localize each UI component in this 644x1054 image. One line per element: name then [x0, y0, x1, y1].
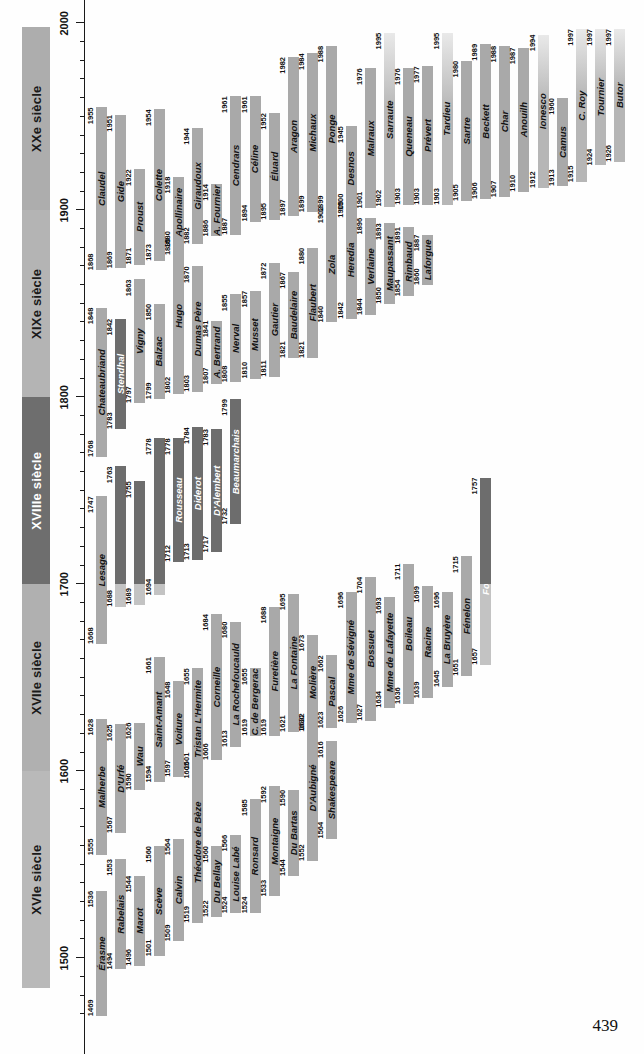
author-end-year: 1784	[182, 427, 191, 444]
author-bar[interactable]: 18601887Laforgue	[422, 235, 433, 285]
author-bar[interactable]: 18021885Hugo	[173, 238, 184, 393]
author-name-label: Nerval	[231, 324, 241, 353]
author-bar[interactable]: 19031995Tardieu	[442, 33, 453, 205]
author-bar[interactable]: 15191605Théodore de Bèze	[192, 762, 203, 923]
axis-minor-tick	[80, 546, 85, 547]
author-start-year: 1905	[451, 184, 460, 201]
axis-minor-tick	[80, 490, 85, 491]
author-bar[interactable]: 19031977Prévert	[422, 66, 433, 204]
author-name-label: Ronsard	[250, 837, 260, 876]
author-bar[interactable]: 19031976Queneau	[403, 68, 414, 204]
author-end-year: 1684	[201, 614, 210, 631]
author-start-year: 1821	[297, 341, 306, 358]
axis-minor-tick	[80, 303, 85, 304]
author-name-label: Tournier	[596, 78, 606, 116]
author-name-label: Laforgue	[423, 240, 433, 281]
author-start-year: 1522	[201, 900, 210, 917]
author-bar[interactable]: 18691951Gide	[115, 115, 126, 268]
author-name-label: Shakespeare	[327, 761, 337, 820]
author-start-year: 1882	[182, 227, 191, 244]
author-end-year: 1863	[124, 280, 133, 297]
axis-minor-tick	[80, 415, 85, 416]
author-bar[interactable]: 15641616Shakespeare	[326, 741, 337, 838]
axis-minor-tick	[80, 359, 85, 360]
author-name-label: Gautier	[270, 303, 280, 336]
author-end-year: 1661	[144, 657, 153, 674]
author-bar[interactable]: 15091564Calvin	[173, 839, 184, 942]
author-start-year: 1797	[124, 386, 133, 403]
author-bar[interactable]: 17321799Beaumarchais	[230, 399, 241, 524]
author-end-year: 1626	[124, 723, 133, 740]
axis-minor-tick	[80, 527, 85, 528]
author-start-year: 1626	[336, 706, 345, 723]
axis-tick-label: 2000	[58, 11, 634, 35]
author-bar[interactable]: 19261997Butor	[614, 29, 625, 162]
axis-minor-tick	[80, 938, 85, 939]
author-end-year: 1995	[432, 33, 441, 50]
author-name-label: La Bruyère	[442, 615, 452, 665]
author-bar[interactable]: 18991984Michaux	[307, 53, 318, 212]
author-name-label: Queneau	[404, 116, 414, 157]
author-bar[interactable]: 16571757Fontenelle	[480, 478, 491, 665]
author-end-year: 1592	[259, 786, 268, 803]
author-bar[interactable]: 19011976Malraux	[365, 68, 376, 208]
author-end-year: 1696	[432, 592, 441, 609]
author-start-year: 1712	[163, 545, 172, 562]
author-start-year: 1564	[316, 822, 325, 839]
author-bar[interactable]: 16941778Voltaire	[154, 438, 165, 595]
author-bar[interactable]: 16211695La Fontaine	[288, 594, 299, 732]
author-end-year: 1842	[105, 319, 114, 336]
author-end-year: 1625	[105, 724, 114, 741]
author-end-year: 1896	[355, 218, 364, 235]
author-bar[interactable]: 15441590Du Bartas	[288, 790, 299, 876]
author-start-year: 1634	[374, 691, 383, 708]
author-start-year: 1594	[144, 766, 153, 783]
author-name-label: Zola	[327, 255, 337, 275]
author-start-year: 1613	[220, 730, 229, 747]
author-bar[interactable]: 18211880Flaubert	[307, 248, 318, 358]
axis-minor-tick	[80, 434, 85, 435]
author-bar[interactable]: 17171783D'Alembert	[211, 429, 222, 552]
author-start-year: 1627	[355, 704, 364, 721]
author-start-year: 1854	[393, 280, 402, 297]
author-name-label: Anouilh	[519, 102, 529, 137]
author-name-label: Corneille	[212, 667, 222, 708]
author-bar[interactable]: 16261696Mme de Sévigné	[346, 592, 357, 723]
author-start-year: 1713	[182, 543, 191, 560]
author-end-year: 1944	[182, 128, 191, 145]
century-band-2: XVIIIe siècle	[22, 397, 50, 584]
axis-minor-tick	[80, 621, 85, 622]
author-end-year: 1961	[220, 96, 229, 113]
author-end-year: 1952	[259, 113, 268, 130]
author-bar[interactable]: 19101987Anouilh	[518, 48, 529, 192]
axis-minor-tick	[80, 995, 85, 996]
author-name-label: Beaumarchais	[231, 429, 241, 494]
author-end-year: 1566	[220, 835, 229, 852]
author-bar[interactable]: 16681747Lesage	[96, 496, 107, 644]
author-end-year: 1783	[201, 429, 210, 446]
author-bar[interactable]: 17831842Stendhal	[115, 319, 126, 429]
author-start-year: 1519	[182, 906, 191, 923]
author-bar[interactable]: 18971982Aragon	[288, 57, 299, 216]
author-end-year: 1696	[336, 592, 345, 609]
author-start-year: 1924	[585, 149, 594, 166]
author-name-label: Malherbe	[97, 766, 107, 808]
author-end-year: 1778	[163, 438, 172, 455]
author-bar[interactable]: 19061989Beckett	[480, 44, 491, 199]
author-start-year: 1622	[297, 713, 306, 730]
axis-minor-tick	[80, 97, 85, 98]
author-name-label: Balzac	[154, 336, 164, 366]
axis-minor-tick	[80, 752, 85, 753]
axis-minor-tick	[80, 901, 85, 902]
author-bar[interactable]: 19051980Sartre	[461, 61, 472, 201]
axis-minor-tick	[80, 471, 85, 472]
author-end-year: 1989	[470, 44, 479, 61]
author-name-label: Cendrars	[231, 145, 241, 187]
author-name-label: Saint-Amant	[154, 692, 164, 748]
author-bar[interactable]: 18681955Claudel	[96, 108, 107, 271]
author-start-year: 1808	[220, 366, 229, 383]
author-bar[interactable]: 19021995Sarraute	[384, 33, 395, 207]
author-end-year: 1536	[86, 891, 95, 908]
author-start-year: 1623	[316, 712, 325, 729]
author-bar[interactable]: 15521630D'Aubigné	[307, 715, 318, 861]
